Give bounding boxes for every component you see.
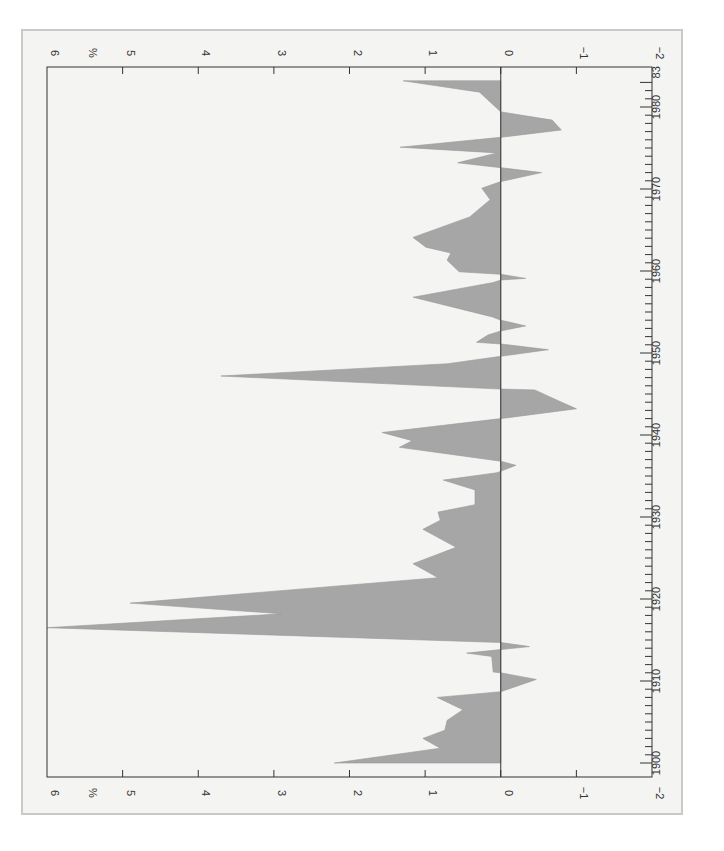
year-tick-label: 1970 xyxy=(650,177,662,201)
value-tick-label: −2 xyxy=(654,47,666,60)
year-tick-label: 1900 xyxy=(650,751,662,775)
value-tick-label: 6 xyxy=(49,50,61,56)
year-tick-label: 1980 xyxy=(650,95,662,119)
value-tick-label: 0 xyxy=(503,790,515,796)
value-tick-label: 5 xyxy=(125,790,137,796)
value-tick-label: −1 xyxy=(578,787,590,800)
value-tick-label: 4 xyxy=(200,50,212,56)
year-tick-label: 83 xyxy=(650,66,662,78)
area-series xyxy=(47,81,576,763)
value-tick-label: 3 xyxy=(276,50,288,56)
value-tick-label: −2 xyxy=(654,787,666,800)
value-tick-label: 1 xyxy=(427,790,439,796)
value-tick-label: 0 xyxy=(503,50,515,56)
year-tick-label: 1910 xyxy=(650,669,662,693)
value-tick-label: 4 xyxy=(200,790,212,796)
year-tick-label: 1920 xyxy=(650,587,662,611)
area-fill xyxy=(47,81,576,763)
value-tick-label: 3 xyxy=(276,790,288,796)
plot-frame xyxy=(47,67,652,777)
value-tick-label: −1 xyxy=(578,47,590,60)
value-axis-bottom: 6543210−1−2% xyxy=(49,770,666,799)
value-axis-top: 6543210−1−2% xyxy=(49,47,666,74)
value-tick-label: 2 xyxy=(352,790,364,796)
unit-label: % xyxy=(87,788,99,798)
value-tick-label: 1 xyxy=(427,50,439,56)
year-tick-label: 1940 xyxy=(650,423,662,447)
year-tick-label: 1930 xyxy=(650,505,662,529)
value-tick-label: 2 xyxy=(352,50,364,56)
unit-label: % xyxy=(87,48,99,58)
value-tick-label: 5 xyxy=(125,50,137,56)
value-tick-label: 6 xyxy=(49,790,61,796)
year-tick-label: 1960 xyxy=(650,259,662,283)
year-tick-label: 1950 xyxy=(650,341,662,365)
year-axis-right: 19001910192019301940195019601970198083 xyxy=(640,66,662,775)
rotated-area-chart: 6543210−1−2% 6543210−1−2% 19001910192019… xyxy=(0,0,724,851)
